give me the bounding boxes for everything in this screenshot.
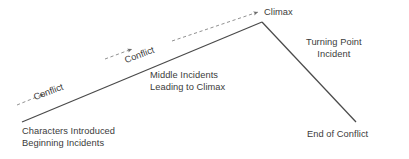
beginning-label-block: Characters Introduced Beginning Incident… [22, 125, 115, 149]
climax-label: Climax [264, 6, 293, 18]
middle-label-line-1: Middle Incidents [150, 69, 225, 81]
beginning-label-line-2: Beginning Incidents [22, 137, 115, 149]
plot-structure-diagram: Conflict Conflict Climax Characters Intr… [0, 0, 409, 159]
turning-point-label-line-1: Turning Point [306, 36, 362, 48]
end-of-conflict-label: End of Conflict [307, 128, 368, 140]
climax-arrow-icon [172, 12, 258, 41]
turning-point-label-line-2: Incident [306, 48, 362, 60]
rising-action-line [22, 22, 262, 122]
middle-label-block: Middle Incidents Leading to Climax [150, 69, 225, 93]
middle-label-line-2: Leading to Climax [150, 81, 225, 93]
turning-point-label-block: Turning Point Incident [306, 36, 362, 60]
beginning-label-line-1: Characters Introduced [22, 125, 115, 137]
